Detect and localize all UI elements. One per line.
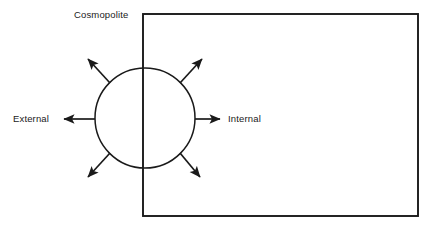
organization-boundary-rectangle: [143, 14, 418, 216]
cosmopolite-label: Cosmopolite: [74, 9, 128, 21]
diagram-canvas: Cosmopolite External Internal: [0, 0, 431, 233]
internal-label: Internal: [228, 113, 261, 125]
arrow-upper-left-icon: [88, 59, 110, 83]
arrow-lower-left-icon: [88, 153, 110, 177]
external-label: External: [13, 113, 49, 125]
arrow-lower-right-icon: [180, 153, 200, 177]
arrow-upper-right-icon: [180, 59, 202, 83]
diagram-graphics: [0, 0, 431, 233]
